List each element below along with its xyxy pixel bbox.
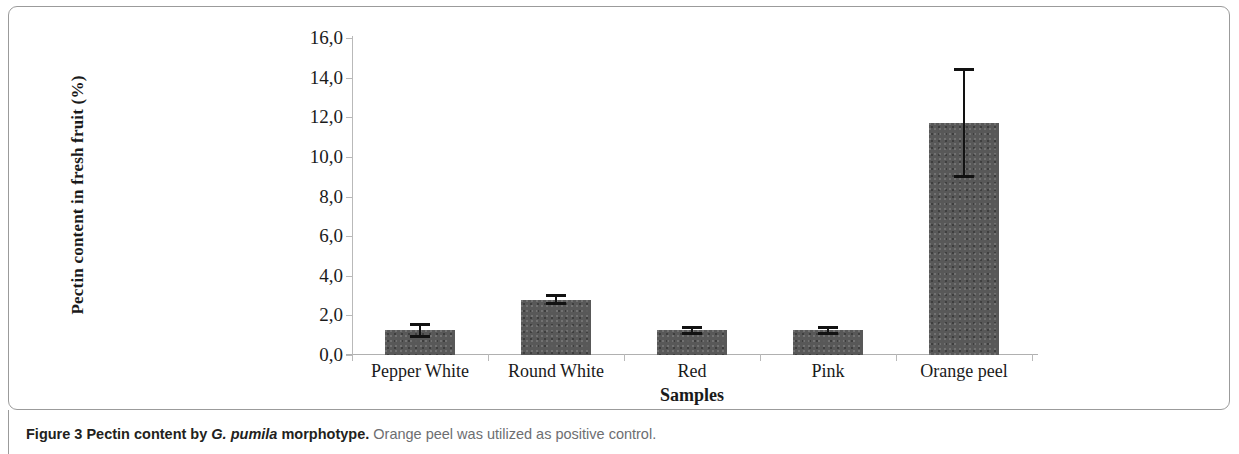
bar-group[interactable] [385,38,455,355]
x-axis-tick-mark [896,354,897,361]
y-axis-tick-mark [346,157,352,158]
y-axis-tick-label: 0,0 [277,344,343,366]
caption-left-rule [8,410,9,454]
y-axis-tick-label: 16,0 [277,27,343,49]
x-axis-tick-mark [488,354,489,361]
figure-panel: Pectin content in fresh fruit (%) 0,02,0… [8,6,1230,410]
x-axis-tick-mark [624,354,625,361]
bar-chart: Pectin content in fresh fruit (%) 0,02,0… [9,7,1231,411]
error-bar-cap-lower [410,335,430,338]
y-axis-tick-label: 12,0 [277,106,343,128]
y-axis-tick-mark [346,78,352,79]
x-axis-tick-label: Round White [488,361,624,382]
x-axis-tick-mark [1032,354,1033,361]
error-bar-cap-upper [682,326,702,329]
error-bar-stem [963,70,965,177]
y-axis-tick-mark [346,276,352,277]
caption-title-part-a: Pectin content by [82,426,211,442]
y-axis-tick-label: 14,0 [277,67,343,89]
x-axis-tick-label: Pink [760,361,896,382]
error-bar-cap-lower [682,332,702,335]
y-axis-tick-mark [346,197,352,198]
error-bar-cap-upper [410,323,430,326]
y-axis-title: Pectin content in fresh fruit (%) [68,30,88,360]
x-axis-tick-label: Orange peel [896,361,1032,382]
y-axis-tick-label: 6,0 [277,225,343,247]
bar-group[interactable] [793,38,863,355]
bar-group[interactable] [929,38,999,355]
y-axis-tick-label: 8,0 [277,186,343,208]
figure-root: Pectin content in fresh fruit (%) 0,02,0… [0,0,1239,454]
caption-figure-number: Figure 3 [26,426,82,442]
bar-round-white[interactable] [521,300,591,355]
error-bar-cap-lower [546,302,566,305]
error-bar-cap-lower [818,332,838,335]
y-axis-tick-mark [346,315,352,316]
y-axis-tick-label: 10,0 [277,146,343,168]
y-axis-tick-mark [346,117,352,118]
x-axis-tick-mark [760,354,761,361]
error-bar-cap-upper [954,68,974,71]
bars-layer [352,38,1032,355]
x-axis-tick-mark [352,354,353,361]
error-bar-cap-upper [818,326,838,329]
error-bar-cap-lower [954,175,974,178]
x-axis-title: Samples [352,385,1032,406]
x-axis-tick-label: Pepper White [352,361,488,382]
bar-group[interactable] [521,38,591,355]
caption-description: Orange peel was utilized as positive con… [369,426,656,442]
y-axis-tick-label: 4,0 [277,265,343,287]
figure-caption: Figure 3 Pectin content by G. pumila mor… [26,424,1206,444]
caption-species-name: G. pumila [211,426,277,442]
y-axis-tick-mark [346,236,352,237]
plot-area [352,38,1032,355]
y-axis-tick-labels: 0,02,04,06,08,010,012,014,016,0 [277,7,343,411]
x-axis-tick-label: Red [624,361,760,382]
caption-title-part-b: morphotype. [277,426,369,442]
bar-group[interactable] [657,38,727,355]
y-axis-tick-mark [346,38,352,39]
y-axis-tick-label: 2,0 [277,304,343,326]
error-bar-cap-upper [546,294,566,297]
